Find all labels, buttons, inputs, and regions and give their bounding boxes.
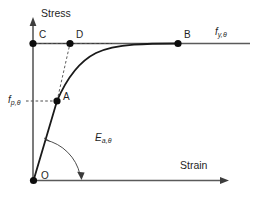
x-axis-arrowhead — [220, 177, 229, 184]
elastic-modulus-label: Ea,θ — [95, 133, 112, 144]
stress-strain-figure: Stress Strain C D B A O fp,θ fy,θ Ea,θ — [0, 0, 261, 198]
point-marker-C — [29, 40, 36, 47]
elastic-modulus-subscript: a,θ — [102, 137, 112, 144]
proportional-limit-label: fp,θ — [8, 95, 21, 106]
point-label-B: B — [184, 30, 191, 40]
elastic-modulus-angle-arrowhead — [77, 172, 84, 180]
x-axis-label: Strain — [180, 160, 207, 171]
point-label-O: O — [41, 171, 49, 181]
elastic-modulus-angle-arc — [46, 140, 81, 175]
y-axis-label: Stress — [41, 8, 71, 19]
yield-strength-label: fy,θ — [215, 27, 227, 38]
point-label-C: C — [39, 30, 46, 40]
point-marker-O — [30, 177, 37, 184]
stress-strain-curve — [34, 44, 179, 181]
point-marker-B — [174, 40, 181, 47]
yield-strength-subscript: y,θ — [218, 31, 227, 38]
elastic-modulus-symbol: E — [95, 132, 102, 143]
point-marker-A — [53, 97, 60, 104]
y-axis-arrowhead — [30, 17, 37, 26]
proportional-limit-subscript: p,θ — [11, 99, 21, 106]
point-label-D: D — [76, 30, 83, 40]
point-marker-D — [66, 40, 73, 47]
point-label-A: A — [63, 92, 70, 102]
